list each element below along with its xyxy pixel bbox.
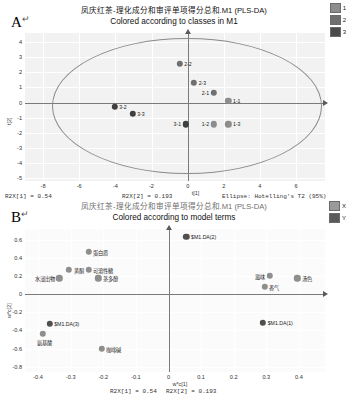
panel-a-r2x2: R2X[2] = 0.193 (122, 193, 172, 200)
y-axis-label: w*c[2] (6, 303, 12, 318)
data-point-label: 2-1 (202, 90, 210, 96)
panel-a-titles: 凤庆红茶-理化成分和审评单项得分总和.M1 (PLS-DA) Colored a… (40, 6, 308, 27)
data-point-label: 可溶性糖 (93, 266, 113, 273)
panel-a-legend: 1 2 3 (330, 3, 346, 37)
gridline-horizontal (25, 258, 325, 259)
data-point-label: 3-1 (174, 121, 182, 127)
panel-a-title: 凤庆红茶-理化成分和审评单项得分总和.M1 (PLS-DA) (40, 6, 308, 16)
gridline-horizontal (25, 330, 325, 331)
y-axis-label: t[2] (6, 117, 12, 125)
x-tick-label: -4 (113, 183, 118, 189)
x-tick-label: 2 (222, 183, 225, 189)
gridline-vertical (136, 229, 137, 372)
gridline-vertical (234, 229, 235, 372)
data-point-label: 蛋白质 (93, 248, 108, 255)
gridline-vertical (266, 229, 267, 372)
x-axis-label: t[1] (192, 190, 200, 196)
legend-item-class-2[interactable]: 2 (330, 15, 346, 25)
panel-b-plot-area: $M1.DA(2)蛋白质黄酮可溶性糖水浸出物茶多酚滋味汤色香气$M1.DA(1)… (25, 229, 325, 372)
data-point[interactable] (85, 248, 91, 254)
panel-a-plsda-scores: A↵ 凤庆红茶-理化成分和审评单项得分总和.M1 (PLS-DA) Colore… (0, 0, 348, 205)
legend-label: Y (342, 215, 346, 222)
data-point-label: 香气 (269, 283, 279, 290)
data-point-label: 茶多酚 (103, 275, 118, 282)
x-tick-label: 0 (186, 183, 189, 189)
y-axis-line (169, 229, 170, 372)
data-point-label: $M1.DA(1) (268, 320, 293, 326)
gridline-horizontal (25, 178, 325, 179)
y-tick-label: 0.2 (8, 273, 22, 279)
data-point-label: 滋味 (255, 272, 265, 279)
x-axis-label: w*c[1] (173, 381, 188, 387)
legend-item-y[interactable]: Y (329, 213, 346, 223)
data-point-label: 汤色 (302, 275, 312, 282)
y-tick-label: -5 (8, 175, 22, 181)
x-axis-arrow-icon (323, 291, 328, 297)
data-point-label: 3-3 (137, 111, 145, 117)
legend-item-x[interactable]: X (329, 201, 346, 211)
panel-b-subtitle: Colored according to model terms (40, 212, 308, 223)
y-tick-label: 4 (8, 39, 22, 45)
legend-swatch-icon (330, 15, 341, 25)
data-point-label: 2-3 (199, 80, 207, 86)
data-point[interactable] (266, 272, 272, 278)
gridline-vertical (71, 229, 72, 372)
legend-label: 2 (343, 17, 346, 24)
x-tick-label: -0.3 (66, 374, 76, 380)
x-tick-label: 4 (258, 183, 261, 189)
y-tick-label: 3 (8, 54, 22, 60)
y-tick-label: 0 (8, 100, 22, 106)
x-tick-label: -0.1 (131, 374, 141, 380)
y-tick-label: 0.4 (8, 255, 22, 261)
x-tick-label: 0.3 (262, 374, 270, 380)
panel-b-title: 凤庆红茶-理化成分和审评单项得分总和.M1 (PLS-DA) (40, 202, 308, 212)
x-tick-label: 6 (295, 183, 298, 189)
x-tick-label: 0 (167, 374, 170, 380)
data-point[interactable] (260, 319, 266, 325)
panel-a-letter: A↵ (11, 14, 30, 31)
gridline-vertical (43, 33, 44, 181)
legend-item-class-3[interactable]: 3 (330, 27, 346, 37)
y-tick-label: -0.6 (8, 346, 22, 352)
y-tick-label: 2 (8, 69, 22, 75)
panel-b-r2x2: R2X[2] = 0.193 (166, 388, 216, 395)
legend-label: 1 (343, 5, 346, 12)
legend-label: X (342, 203, 346, 210)
panel-b-legend: X Y (329, 201, 346, 223)
y-tick-label: 0 (8, 291, 22, 297)
gridline-vertical (38, 229, 39, 372)
data-point[interactable] (40, 331, 46, 337)
x-tick-label: 0.2 (230, 374, 238, 380)
data-point-label: 氨基酸 (37, 339, 52, 346)
panel-b-r2x1: R2X[1] = 0.54 (110, 388, 157, 395)
gridline-horizontal (25, 349, 325, 350)
data-point[interactable] (95, 275, 101, 281)
data-point-label: 1-2 (202, 121, 210, 127)
hotelling-ellipse (52, 38, 322, 174)
legend-swatch-icon (330, 27, 341, 37)
x-tick-label: 0.1 (197, 374, 205, 380)
data-point[interactable] (56, 275, 62, 281)
legend-swatch-icon (329, 213, 340, 223)
legend-item-class-1[interactable]: 1 (330, 3, 346, 13)
y-tick-label: -0.4 (8, 327, 22, 333)
x-tick-label: -2 (149, 183, 154, 189)
data-point-label: 2-2 (184, 61, 192, 67)
gridline-horizontal (25, 367, 325, 368)
gridline-vertical (299, 229, 300, 372)
data-point[interactable] (46, 321, 52, 327)
x-tick-label: -0.4 (33, 374, 43, 380)
data-point-label: 黄酮 (74, 266, 84, 273)
panel-a-subtitle: Colored according to classes in M1 (40, 16, 308, 27)
gridline-vertical (201, 229, 202, 372)
data-point-label: 咖啡碱 (106, 345, 121, 352)
panel-a-r2x1: R2X[1] = 0.54 (5, 193, 52, 200)
gridline-horizontal (25, 276, 325, 277)
x-axis-arrow-icon (323, 100, 328, 106)
x-axis-line (25, 294, 325, 295)
y-tick-label: -2 (8, 130, 22, 136)
y-tick-label: -0.8 (8, 364, 22, 370)
data-point-label: 1-1 (233, 98, 241, 104)
x-tick-label: -8 (41, 183, 46, 189)
data-point[interactable] (85, 266, 91, 272)
